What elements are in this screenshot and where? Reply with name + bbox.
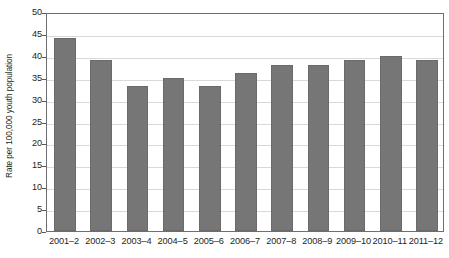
x-tick-label: 2005–6 <box>191 236 227 247</box>
y-tick-label: 10 <box>16 183 42 192</box>
bar <box>199 86 221 231</box>
x-tick-label: 2010–11 <box>372 236 408 247</box>
bar <box>163 78 185 231</box>
y-tick-label: 40 <box>16 52 42 61</box>
bar <box>127 86 149 231</box>
y-tick-mark <box>42 35 46 36</box>
y-axis-ticks: 50454035302520151050 <box>16 0 42 258</box>
bar <box>271 65 293 231</box>
y-axis-title: Rate per 100,000 youth population <box>2 0 16 232</box>
y-tick-label: 50 <box>16 8 42 17</box>
y-tick-label: 5 <box>16 205 42 214</box>
bar <box>235 73 257 231</box>
y-tick-mark <box>42 123 46 124</box>
x-tick-label: 2008–9 <box>299 236 335 247</box>
bars-layer <box>47 14 443 231</box>
y-tick-label: 0 <box>16 227 42 236</box>
bar <box>54 38 76 231</box>
bar <box>90 60 112 231</box>
x-tick-label: 2003–4 <box>118 236 154 247</box>
y-tick-mark <box>42 210 46 211</box>
x-tick-label: 2011–12 <box>408 236 444 247</box>
y-tick-mark <box>42 101 46 102</box>
x-axis-ticks: 2001–22002–32003–42004–52005–62006–72007… <box>46 236 444 256</box>
y-tick-mark <box>42 57 46 58</box>
y-tick-label: 45 <box>16 30 42 39</box>
x-tick-label: 2006–7 <box>227 236 263 247</box>
plot-area <box>46 13 444 232</box>
bar-chart: Rate per 100,000 youth population 504540… <box>0 0 449 258</box>
y-tick-mark <box>42 13 46 14</box>
y-tick-label: 25 <box>16 118 42 127</box>
y-tick-mark <box>42 232 46 233</box>
bar <box>380 56 402 231</box>
bar <box>344 60 366 231</box>
x-tick-label: 2001–2 <box>46 236 82 247</box>
y-tick-label: 20 <box>16 139 42 148</box>
bar <box>416 60 438 231</box>
y-tick-mark <box>42 188 46 189</box>
y-tick-mark <box>42 144 46 145</box>
y-tick-label: 35 <box>16 74 42 83</box>
y-tick-mark <box>42 166 46 167</box>
y-tick-label: 15 <box>16 161 42 170</box>
bar <box>308 65 330 231</box>
y-tick-mark <box>42 79 46 80</box>
x-tick-label: 2007–8 <box>263 236 299 247</box>
x-tick-label: 2009–10 <box>335 236 371 247</box>
x-tick-label: 2002–3 <box>82 236 118 247</box>
x-tick-label: 2004–5 <box>155 236 191 247</box>
y-tick-label: 30 <box>16 96 42 105</box>
